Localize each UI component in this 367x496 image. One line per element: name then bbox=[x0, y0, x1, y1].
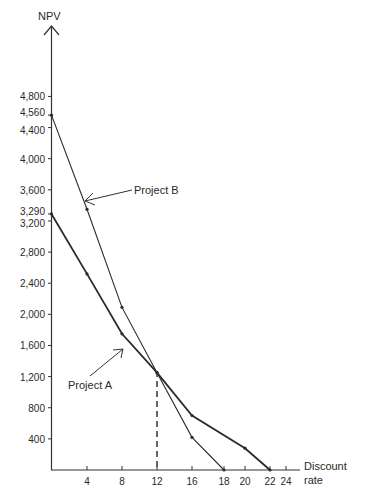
y-tick-label: 3,200 bbox=[20, 218, 45, 229]
y-tick-label: 3,290 bbox=[20, 206, 45, 217]
x-tick-label: 8 bbox=[119, 476, 125, 487]
y-tick-label: 4,400 bbox=[20, 125, 45, 136]
data-point bbox=[50, 212, 53, 215]
x-tick-label: 24 bbox=[280, 476, 292, 487]
data-point bbox=[120, 306, 123, 309]
project-b-annotation: Project B bbox=[85, 184, 179, 205]
data-point bbox=[243, 447, 246, 450]
y-tick-label: 4,800 bbox=[20, 91, 45, 102]
data-point bbox=[85, 208, 88, 211]
y-tick-label: 800 bbox=[28, 403, 45, 414]
data-point bbox=[50, 114, 53, 117]
x-axis-title-line2: rate bbox=[304, 474, 323, 486]
y-tick-label: 4,000 bbox=[20, 154, 45, 165]
y-tick-label: 1,600 bbox=[20, 340, 45, 351]
x-tick-label: 4 bbox=[84, 476, 90, 487]
axes bbox=[44, 26, 300, 470]
y-tick-label: 1,200 bbox=[20, 372, 45, 383]
project-b-label: Project B bbox=[134, 184, 179, 196]
series-group bbox=[50, 114, 272, 472]
y-tick-label: 2,400 bbox=[20, 278, 45, 289]
x-tick-label: 20 bbox=[239, 476, 251, 487]
y-tick-label: 4,560 bbox=[20, 107, 45, 118]
y-tick-label: 400 bbox=[28, 434, 45, 445]
data-point bbox=[222, 468, 225, 471]
data-point bbox=[190, 414, 193, 417]
y-tick-label: 3,600 bbox=[20, 185, 45, 196]
project-a-label: Project A bbox=[68, 379, 113, 391]
x-axis-title-line1: Discount bbox=[304, 460, 347, 472]
data-point bbox=[190, 436, 193, 439]
project-b-arrow bbox=[85, 190, 132, 201]
y-tick-label: 2,000 bbox=[20, 309, 45, 320]
y-tick-label: 2,800 bbox=[20, 247, 45, 258]
data-point bbox=[85, 272, 88, 275]
data-point bbox=[120, 332, 123, 335]
project-a-annotation: Project A bbox=[68, 349, 123, 391]
y-ticks: 4008001,2001,6002,0002,4002,8003,2003,29… bbox=[20, 91, 52, 444]
x-tick-label: 16 bbox=[186, 476, 198, 487]
x-ticks: 48121618202224 bbox=[84, 466, 292, 487]
project-b-line bbox=[52, 115, 225, 470]
project-a-line bbox=[52, 214, 271, 470]
project-a-arrow bbox=[90, 349, 123, 376]
x-tick-label: 22 bbox=[264, 476, 276, 487]
y-axis-title: NPV bbox=[38, 10, 61, 22]
npv-chart: 4008001,2001,6002,0002,4002,8003,2003,29… bbox=[0, 0, 367, 496]
x-tick-label: 12 bbox=[151, 476, 163, 487]
x-tick-label: 18 bbox=[218, 476, 230, 487]
data-point bbox=[268, 468, 271, 471]
